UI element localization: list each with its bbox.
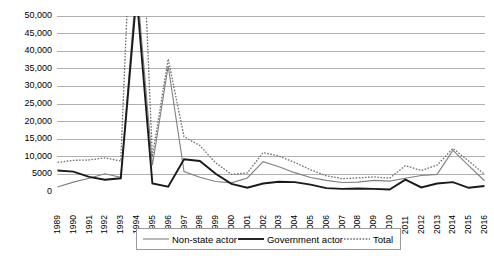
legend-label: Total — [373, 234, 394, 245]
dotted-line-swatch — [344, 235, 370, 243]
plot-svg — [57, 16, 485, 192]
chart-legend: Non-state actorGovernment actorTotal — [136, 228, 401, 250]
series-line — [58, 16, 485, 190]
thick-black-line-swatch — [238, 235, 264, 243]
thin-gray-line-swatch — [143, 235, 169, 243]
legend-entry: Total — [344, 234, 394, 245]
y-axis-tick-label: 20,000 — [24, 117, 52, 126]
x-axis-tick-label: 2011 — [401, 216, 410, 234]
y-axis-tick-label: 15,000 — [24, 134, 52, 143]
y-axis-tick-label: 25,000 — [24, 99, 52, 108]
y-axis: 50,00045,00040,00035,00030,00025,00020,0… — [0, 0, 52, 200]
legend-label: Non-state actor — [172, 234, 238, 245]
x-axis-tick-label: 1990 — [69, 215, 78, 234]
x-axis-tick-label: 2014 — [448, 215, 457, 234]
y-axis-tick-label: 5000 — [32, 169, 52, 178]
y-axis-tick-label: 40,000 — [24, 46, 52, 55]
plot-area — [57, 16, 485, 192]
legend-label: Government actor — [267, 234, 344, 245]
series-line — [58, 16, 485, 179]
x-axis-tick-label: 2013 — [433, 215, 442, 234]
x-axis-tick-label: 2012 — [417, 215, 426, 234]
legend-entry: Non-state actor — [143, 234, 238, 245]
x-axis-tick-label: 1991 — [85, 215, 94, 234]
y-axis-tick-label: 35,000 — [24, 64, 52, 73]
x-axis-tick-label: 1989 — [53, 215, 62, 234]
y-axis-tick-label: 10,000 — [24, 152, 52, 161]
y-axis-tick-label: 45,000 — [24, 29, 52, 38]
x-axis-tick-label: 1993 — [116, 215, 125, 234]
y-axis-tick-label: 0 — [47, 187, 52, 196]
line-chart: 50,00045,00040,00035,00030,00025,00020,0… — [0, 0, 494, 260]
y-axis-tick-label: 30,000 — [24, 81, 52, 90]
y-axis-tick-label: 50,000 — [24, 11, 52, 20]
x-axis-tick-label: 2016 — [480, 215, 489, 234]
legend-entry: Government actor — [238, 234, 344, 245]
x-axis-tick-label: 2015 — [464, 215, 473, 234]
x-axis-tick-label: 1992 — [100, 215, 109, 234]
